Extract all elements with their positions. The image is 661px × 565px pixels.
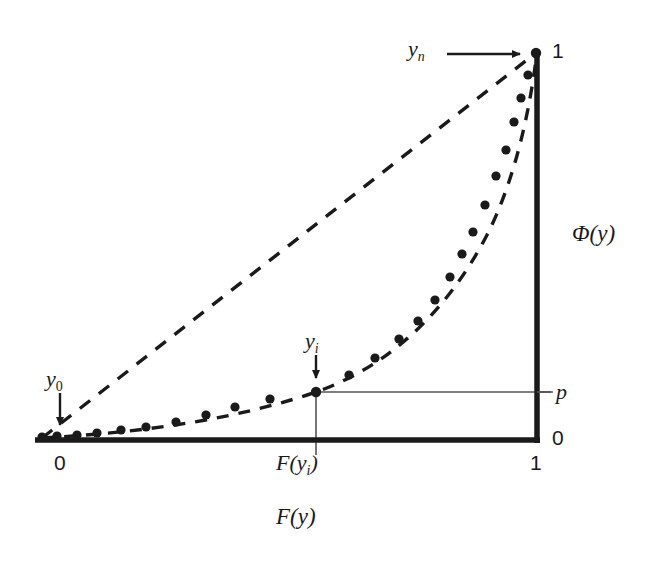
plot-area xyxy=(0,0,661,565)
y-axis-tick-label-p: p xyxy=(556,381,567,403)
x-axis-tick-label-1: 1 xyxy=(530,452,542,473)
y-axis-tick-label-0: 0 xyxy=(552,427,564,448)
figure-canvas: yn yi y0 p 1 0 0 1 F(yi) F(y) Φ(y) xyxy=(0,0,661,565)
annotation-label-y0: y0 xyxy=(46,368,63,394)
y-axis-tick-label-1: 1 xyxy=(552,40,564,61)
diagonal-reference-line xyxy=(42,52,537,438)
x-axis-tick-label-Fyi: F(yi) xyxy=(276,452,318,478)
annotation-label-yn: yn xyxy=(408,38,425,64)
x-axis-title: F(y) xyxy=(276,505,316,528)
y-axis-title: Φ(y) xyxy=(572,222,615,245)
annotation-label-yi: yi xyxy=(305,330,319,356)
x-axis-tick-label-0: 0 xyxy=(54,452,66,473)
